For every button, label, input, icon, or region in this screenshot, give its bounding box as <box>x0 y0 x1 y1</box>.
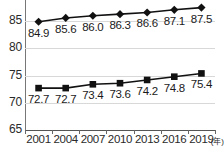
line-chart: 6570758085 84.985.686.086.386.687.187.57… <box>0 0 224 160</box>
data-label-series-lower-2016: 74.8 <box>164 82 185 94</box>
data-point-marker <box>143 8 151 16</box>
x-tick-label-2010: 2010 <box>108 133 132 145</box>
data-label-series-upper-2007: 86.0 <box>82 21 103 33</box>
data-label-series-lower-2007: 73.4 <box>82 89 103 101</box>
x-tick-label-2013: 2013 <box>135 133 159 145</box>
data-point-marker <box>62 14 70 22</box>
x-axis-line <box>25 130 215 131</box>
plot-area: 84.985.686.086.386.687.187.572.772.773.4… <box>25 0 215 130</box>
y-tick-label-70: 70 <box>0 95 22 109</box>
y-axis-labels: 6570758085 <box>0 0 24 130</box>
data-point-marker <box>62 85 69 92</box>
data-point-marker <box>35 85 42 92</box>
data-label-series-upper-2001: 84.9 <box>28 27 49 39</box>
data-label-series-lower-2004: 72.7 <box>55 93 76 105</box>
data-label-series-upper-2010: 86.3 <box>109 19 130 31</box>
data-point-marker <box>89 12 97 20</box>
data-point-marker <box>170 6 178 14</box>
data-point-marker <box>197 4 205 12</box>
data-point-marker <box>90 81 97 88</box>
data-point-marker <box>117 80 124 87</box>
data-label-series-lower-2001: 72.7 <box>28 93 49 105</box>
data-point-marker <box>34 18 42 26</box>
x-tick-label-2019: 2019 <box>189 133 213 145</box>
x-tick-label-2016: 2016 <box>162 133 186 145</box>
x-tick-label-2004: 2004 <box>54 133 78 145</box>
data-label-series-upper-2016: 87.1 <box>164 15 185 27</box>
y-tick-label-65: 65 <box>0 122 22 136</box>
y-tick-label-80: 80 <box>0 40 22 54</box>
data-label-series-lower-2013: 74.2 <box>137 85 158 97</box>
data-label-series-upper-2013: 86.6 <box>137 17 158 29</box>
x-tick-label-2007: 2007 <box>81 133 105 145</box>
y-tick-label-85: 85 <box>0 13 22 27</box>
data-point-marker <box>171 73 178 80</box>
data-label-series-upper-2019: 87.5 <box>191 13 212 25</box>
data-label-series-lower-2019: 75.4 <box>191 78 212 90</box>
data-point-marker <box>144 77 151 84</box>
x-axis-labels: (年) 2001200420072010201320162019 <box>25 133 224 151</box>
data-label-series-lower-2010: 73.6 <box>109 88 130 100</box>
data-label-series-upper-2004: 85.6 <box>55 23 76 35</box>
data-point-marker <box>198 70 205 77</box>
x-tick-label-2001: 2001 <box>26 133 50 145</box>
data-point-marker <box>116 10 124 18</box>
y-tick-label-75: 75 <box>0 68 22 82</box>
